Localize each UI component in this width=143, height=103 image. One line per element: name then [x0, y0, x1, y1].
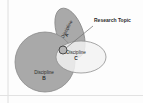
discipline-b-sublabel: B	[42, 76, 46, 81]
venn-diagram-figure: Discipline A Discipline B Discipline C R…	[0, 0, 143, 103]
discipline-c-sublabel: C	[74, 56, 78, 61]
research-topic-callout-label: Research Topic	[94, 17, 131, 23]
discipline-c-label: Discipline	[66, 50, 86, 55]
research-topic-shape[interactable]	[59, 46, 67, 54]
discipline-b-label: Discipline	[34, 70, 54, 75]
diagram-canvas: Discipline A Discipline B Discipline C R…	[0, 0, 143, 103]
